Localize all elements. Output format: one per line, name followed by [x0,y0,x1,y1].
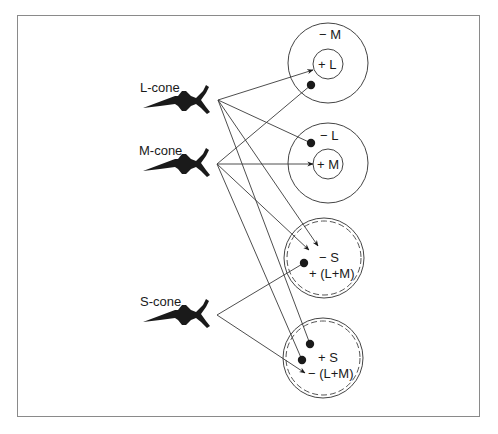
connection-S-cell-4 [217,315,305,373]
connections [217,70,318,373]
cell-1-surround-label: − M [319,27,341,42]
cell-1-center-label: + L [318,57,336,72]
cell-4-label-s: + S [318,350,338,365]
cell-4-label-lm: − (L+M) [308,366,354,381]
connection-L-cell-3 [218,100,318,246]
cell-2-surround-label: − L [320,128,338,143]
cone-label-l: L-cone [140,80,180,95]
inhibitory-dot-icon [307,81,315,89]
cell-3-label-s: − S [319,250,339,265]
cone-label-m: M-cone [139,143,182,158]
connection-M-cell-4 [217,164,302,360]
connection-M-cell-1 [217,85,311,164]
connection-S-cell-3 [217,263,304,315]
inhibitory-dot-icon [306,340,314,348]
connection-M-cell-3 [217,164,309,250]
cone-photoreceptors [143,85,210,328]
inhibitory-dot-icon [298,356,306,364]
cell-2-center-label: + M [317,157,339,172]
inhibitory-dot-icon [307,139,315,147]
diagram-canvas [0,0,498,434]
cell-3-label-lm: + (L+M) [309,266,355,281]
diagram-stage: L-cone M-cone S-cone − M + L − L + M − S… [0,0,498,434]
receptive-fields [283,23,368,398]
inhibitory-dot-icon [300,259,308,267]
cone-label-s: S-cone [140,294,181,309]
